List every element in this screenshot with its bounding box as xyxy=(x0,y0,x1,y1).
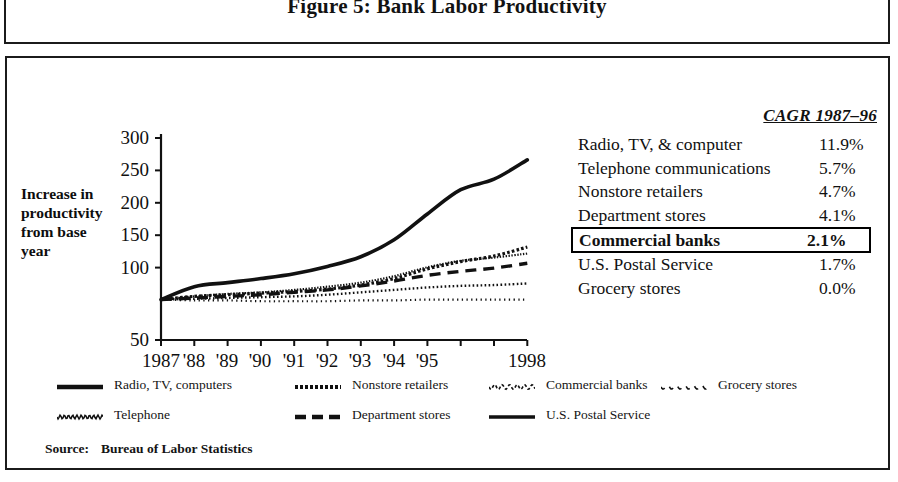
legend-item-label: U.S. Postal Service xyxy=(546,407,650,423)
legend-item-label: Nonstore retailers xyxy=(352,377,448,393)
legend-swatch-icon xyxy=(295,379,341,391)
source-note: Source:Bureau of Labor Statistics xyxy=(45,441,252,457)
y-axis-title: Increase in productivity from base year xyxy=(21,184,117,260)
cagr-row-value: 1.7% xyxy=(819,253,881,277)
legend-swatch-icon xyxy=(57,379,103,391)
cagr-row-label: Telephone communications xyxy=(578,157,819,181)
chart-series-group xyxy=(161,160,527,301)
legend-item: Commercial banks xyxy=(489,370,648,400)
y-tick-50: 50 xyxy=(103,329,149,351)
legend-item: Grocery stores xyxy=(661,370,797,400)
series-line-grocery-stores xyxy=(161,300,527,302)
y-tick-300: 300 xyxy=(103,127,149,149)
cagr-row-label: Department stores xyxy=(578,204,819,228)
legend-swatch-icon xyxy=(57,409,103,421)
chart-axes xyxy=(155,134,527,346)
y-tick-250: 250 xyxy=(103,159,149,181)
cagr-row-value: 5.7% xyxy=(819,157,881,181)
legend-swatch-icon xyxy=(295,409,341,421)
cagr-row: Nonstore retailers4.7% xyxy=(573,180,881,204)
x-tick-1998: 1998 xyxy=(497,350,557,372)
source-label: Source: xyxy=(45,441,89,456)
cagr-row: Radio, TV, & computer11.9% xyxy=(573,133,881,157)
cagr-row-label: Commercial banks xyxy=(579,229,807,251)
legend-item-label: Telephone xyxy=(114,407,170,423)
cagr-table-rows: Radio, TV, & computer11.9%Telephone comm… xyxy=(573,133,881,300)
series-line-nonstore-retailers xyxy=(161,247,527,300)
y-tick-100: 100 xyxy=(103,257,149,279)
legend-row: Radio, TV, computersNonstore retailersCo… xyxy=(57,370,857,400)
source-text: Bureau of Labor Statistics xyxy=(101,441,252,456)
legend-item: U.S. Postal Service xyxy=(489,400,650,430)
figure-body-box: 300 250 200 150 100 50 1987 '88 '89 '90 … xyxy=(5,56,890,470)
legend-swatch-icon xyxy=(661,379,707,391)
cagr-row: Department stores4.1% xyxy=(573,204,881,228)
legend-row: TelephoneDepartment storesU.S. Postal Se… xyxy=(57,400,857,430)
legend-item: Radio, TV, computers xyxy=(57,370,232,400)
cagr-table: CAGR 1987–96 Radio, TV, & computer11.9%T… xyxy=(573,106,881,300)
series-line-radio-tv-computers xyxy=(161,160,527,300)
cagr-row-highlighted: Commercial banks2.1% xyxy=(571,227,871,253)
cagr-row-value: 4.1% xyxy=(819,204,881,228)
cagr-row-label: Nonstore retailers xyxy=(578,180,819,204)
figure-title-box: Figure 5: Bank Labor Productivity xyxy=(4,0,890,44)
legend-item-label: Grocery stores xyxy=(718,377,797,393)
cagr-row-value: 0.0% xyxy=(819,277,881,301)
cagr-row-label: Grocery stores xyxy=(578,277,819,301)
legend-item-label: Commercial banks xyxy=(546,377,648,393)
legend-swatch-icon xyxy=(489,379,535,391)
cagr-row: U.S. Postal Service1.7% xyxy=(573,253,881,277)
cagr-table-header: CAGR 1987–96 xyxy=(573,106,881,126)
page-title: Figure 5: Bank Labor Productivity xyxy=(6,0,888,19)
legend-item: Telephone xyxy=(57,400,170,430)
cagr-row-label: Radio, TV, & computer xyxy=(578,133,819,157)
chart-legend: Radio, TV, computersNonstore retailersCo… xyxy=(57,370,857,430)
cagr-row-value: 11.9% xyxy=(819,133,881,157)
cagr-row-value: 4.7% xyxy=(819,180,881,204)
cagr-row: Telephone communications5.7% xyxy=(573,157,881,181)
x-tick-95: '95 xyxy=(403,350,451,372)
legend-item: Department stores xyxy=(295,400,451,430)
cagr-row: Grocery stores0.0% xyxy=(573,277,881,301)
legend-swatch-icon xyxy=(489,409,535,421)
cagr-row-label: U.S. Postal Service xyxy=(578,253,819,277)
legend-item-label: Department stores xyxy=(352,407,451,423)
legend-item-label: Radio, TV, computers xyxy=(114,377,232,393)
legend-item: Nonstore retailers xyxy=(295,370,448,400)
cagr-row-value: 2.1% xyxy=(807,229,869,251)
